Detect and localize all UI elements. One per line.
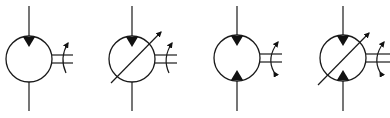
rotation-arrow-icon [166, 43, 172, 73]
symbol-3-fixed-bidirectional [214, 6, 282, 111]
symbol-4-variable-bidirectional [318, 6, 390, 111]
rotation-arrow-icon [63, 43, 68, 73]
bidirectional-rotation-arrow-icon [377, 42, 384, 72]
hydraulic-symbols-diagram [0, 0, 390, 118]
bidirectional-rotation-arrow-icon [271, 42, 278, 72]
symbol-1-fixed-unidirectional [6, 6, 73, 111]
symbol-2-variable-unidirectional [109, 6, 177, 111]
